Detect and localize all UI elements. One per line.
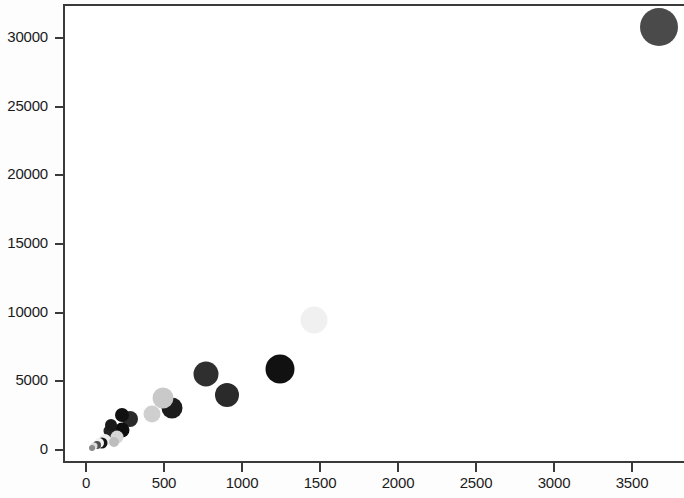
- x-axis-tick-label: 1500: [304, 474, 337, 491]
- x-axis-tick: [163, 463, 165, 472]
- x-axis-tick-label: 1000: [226, 474, 259, 491]
- y-axis-tick: [55, 37, 64, 39]
- data-point-bubble: [143, 405, 160, 422]
- y-axis-tick: [55, 380, 64, 382]
- y-axis-tick: [55, 174, 64, 176]
- x-axis-tick: [397, 463, 399, 472]
- x-axis-tick-label: 3000: [538, 474, 571, 491]
- bubble-scatter-chart: 0500010000150002000025000300000500100015…: [0, 0, 684, 498]
- plot-area: [63, 4, 684, 463]
- y-axis-tick-label: 25000: [7, 97, 48, 114]
- data-point-bubble: [89, 445, 95, 451]
- x-axis-tick-label: 0: [82, 474, 90, 491]
- y-axis-tick-label: 20000: [7, 165, 48, 182]
- y-axis-tick-label: 5000: [15, 371, 48, 388]
- data-point-bubble: [109, 437, 119, 447]
- x-axis-tick-label: 3500: [616, 474, 649, 491]
- y-axis-tick: [55, 312, 64, 314]
- x-axis-tick-label: 2500: [460, 474, 493, 491]
- x-axis-tick: [85, 463, 87, 472]
- data-point-bubble: [193, 361, 218, 386]
- data-point-bubble: [640, 8, 678, 46]
- data-point-bubble: [215, 383, 239, 407]
- y-axis-tick-label: 15000: [7, 234, 48, 251]
- x-axis-tick: [319, 463, 321, 472]
- data-point-bubble: [265, 355, 294, 384]
- x-axis-tick: [631, 463, 633, 472]
- y-axis-tick-label: 30000: [7, 28, 48, 45]
- x-axis-tick: [475, 463, 477, 472]
- y-axis-tick-label: 10000: [7, 303, 48, 320]
- y-axis-tick: [55, 449, 64, 451]
- data-point-bubble: [105, 419, 117, 431]
- x-axis-tick-label: 500: [152, 474, 176, 491]
- y-axis-tick-label: 0: [40, 440, 48, 457]
- plot-data-layer: [65, 6, 684, 461]
- x-axis-tick: [553, 463, 555, 472]
- y-axis-tick: [55, 243, 64, 245]
- data-point-bubble: [115, 408, 129, 422]
- x-axis-tick-label: 2000: [382, 474, 415, 491]
- y-axis-tick: [55, 106, 64, 108]
- x-axis-tick: [241, 463, 243, 472]
- data-point-bubble: [301, 307, 328, 334]
